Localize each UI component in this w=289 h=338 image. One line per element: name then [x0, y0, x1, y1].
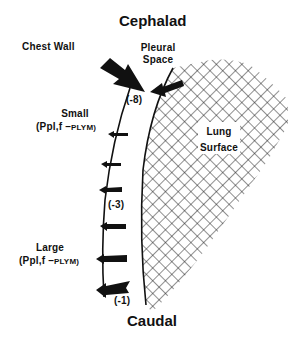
caudal-label: Caudal — [127, 312, 177, 329]
pleural-space-line-1: Pleural — [136, 42, 180, 54]
large-gradient-formula: (Ppl,f –PLYM) — [19, 255, 79, 266]
pleural-space-label: Pleural Space — [136, 42, 180, 66]
small-gradient-formula: (Ppl,f –PLYM) — [36, 121, 96, 132]
arrow-icon — [99, 186, 122, 194]
lung-surface-line-2: Surface — [196, 140, 242, 156]
arrow-icon — [96, 254, 127, 264]
pleural-space-line-2: Space — [136, 54, 180, 66]
lung-surface-label: Lung Surface — [196, 124, 242, 156]
arrow-icon — [108, 131, 128, 138]
pressure-bottom-label: (-1) — [114, 295, 130, 306]
pleural-pressure-diagram: Cephalad Chest Wall Pleural Space (-8) S… — [0, 0, 289, 338]
pressure-top-label: (-8) — [126, 94, 142, 105]
small-gradient-label: Small — [55, 108, 95, 119]
large-gradient-label: Large — [28, 242, 72, 253]
lung-surface-region — [130, 55, 289, 320]
lung-surface-line-1: Lung — [196, 124, 242, 140]
chest-wall-line — [103, 88, 130, 297]
cephalad-label: Cephalad — [119, 12, 187, 29]
gradient-arrows — [96, 131, 130, 298]
chest-wall-label: Chest Wall — [22, 41, 75, 52]
pressure-middle-label: (-3) — [108, 199, 124, 210]
